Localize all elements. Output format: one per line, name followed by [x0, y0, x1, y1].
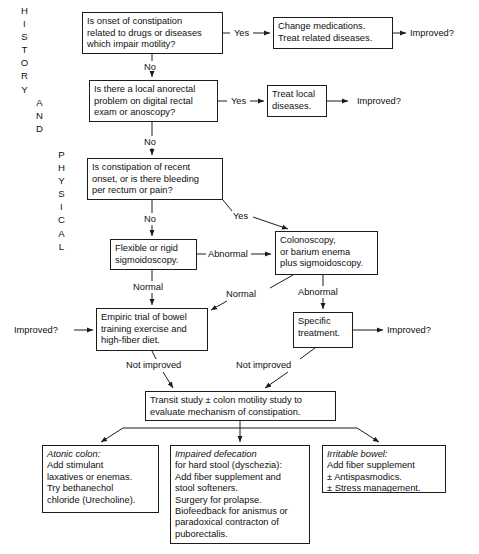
- edge-label-normal-sigmoidoscopy: Normal: [133, 282, 163, 292]
- flowchart-canvas: H I S T O R Y A N D P H Y S I C A L Is o…: [0, 0, 479, 554]
- edge-label-not-improved-specific: Not improved: [236, 360, 291, 370]
- edge-label-yes-anorectal: Yes: [231, 96, 246, 106]
- spine-label-history: H I S T O R Y: [18, 4, 31, 96]
- edge-empiric-notimproved-lower: [163, 372, 173, 388]
- edge-recent-yes-upper: [223, 200, 232, 211]
- node-empiric-trial[interactable]: Empiric trial of bowel training exercise…: [96, 308, 208, 351]
- spine-letter: O: [18, 56, 31, 69]
- atonic-colon-title: Atonic colon:: [47, 449, 100, 459]
- spine-letter: H: [55, 161, 68, 174]
- node-irritable-bowel[interactable]: Irritable bowel: Add fiber supplement ± …: [322, 445, 446, 493]
- node-specific-treatment[interactable]: Specific treatment.: [293, 312, 353, 348]
- edge-specific-notimproved-upper: [300, 348, 315, 359]
- node-treat-local-diseases[interactable]: Treat local diseases.: [267, 85, 327, 117]
- spine-label-and: A N D: [33, 96, 46, 135]
- node-transit-study[interactable]: Transit study ± colon motility study to …: [145, 391, 336, 421]
- spine-letter: Y: [18, 83, 31, 96]
- node-drug-question[interactable]: Is onset of constipation related to drug…: [82, 12, 223, 54]
- edge-colon-normal-upper: [270, 275, 293, 288]
- impaired-defecation-body: for hard stool (dyschezia): Add fiber su…: [175, 460, 288, 538]
- edge-label-abnormal-sigmoidoscopy: Abnormal: [208, 249, 248, 259]
- edge-label-yes-drug: Yes: [234, 28, 249, 38]
- spine-letter: N: [33, 109, 46, 122]
- spine-letter: A: [33, 96, 46, 109]
- spine-letter: I: [55, 200, 68, 213]
- spine-letter: P: [55, 148, 68, 161]
- spine-letter: Y: [55, 174, 68, 187]
- edge-empiric-notimproved-upper: [152, 351, 156, 359]
- edge-transit-to-irritable: [357, 428, 379, 442]
- spine-letter: S: [55, 187, 68, 200]
- spine-letter: S: [18, 30, 31, 43]
- spine-letter: I: [18, 17, 31, 30]
- spine-letter: L: [55, 240, 68, 253]
- edge-recent-yes-lower: [253, 217, 288, 229]
- terminal-improved-anorectal: Improved?: [357, 96, 401, 106]
- node-impaired-defecation[interactable]: Impaired defecation for hard stool (dysc…: [170, 445, 310, 544]
- edge-label-not-improved-empiric: Not improved: [126, 360, 181, 370]
- spine-letter: A: [55, 227, 68, 240]
- node-recent-onset-question[interactable]: Is constipation of recent onset, or is t…: [87, 158, 223, 200]
- edge-specific-notimproved-lower: [265, 372, 288, 388]
- spine-letter: T: [18, 43, 31, 56]
- edge-transit-to-atonic: [101, 428, 123, 442]
- terminal-improved-drug: Improved?: [410, 28, 454, 38]
- impaired-defecation-title: Impaired defecation: [175, 449, 257, 459]
- edge-label-yes-recent-onset: Yes: [233, 211, 248, 221]
- spine-letter: H: [18, 4, 31, 17]
- spine-letter: C: [55, 213, 68, 226]
- node-anorectal-question[interactable]: Is there a local anorectal problem on di…: [89, 80, 218, 122]
- terminal-improved-specific: Improved?: [387, 325, 431, 335]
- node-atonic-colon[interactable]: Atonic colon: Add stimulant laxatives or…: [42, 445, 159, 513]
- edge-label-no-drug: No: [144, 62, 156, 72]
- edge-label-normal-colonoscopy: Normal: [226, 289, 256, 299]
- node-sigmoidoscopy[interactable]: Flexible or rigid sigmoidoscopy.: [110, 239, 197, 270]
- spine-label-physical: P H Y S I C A L: [55, 148, 68, 253]
- irritable-bowel-title: Irritable bowel:: [327, 449, 387, 459]
- terminal-improved-empiric: Improved?: [14, 325, 58, 335]
- edge-label-no-anorectal: No: [144, 137, 156, 147]
- spine-letter: D: [33, 122, 46, 135]
- edge-colon-normal-lower: [211, 301, 227, 310]
- node-change-medications[interactable]: Change medications. Treat related diseas…: [273, 17, 393, 49]
- atonic-colon-body: Add stimulant laxatives or enemas. Try b…: [47, 460, 135, 504]
- node-colonoscopy[interactable]: Colonoscopy, or barium enema plus sigmoi…: [275, 231, 378, 275]
- edge-label-no-recent-onset: No: [144, 214, 156, 224]
- edge-label-abnormal-colonoscopy: Abnormal: [298, 287, 338, 297]
- irritable-bowel-body: Add fiber supplement ± Antispasmodics. ±…: [327, 460, 420, 493]
- spine-letter: R: [18, 69, 31, 82]
